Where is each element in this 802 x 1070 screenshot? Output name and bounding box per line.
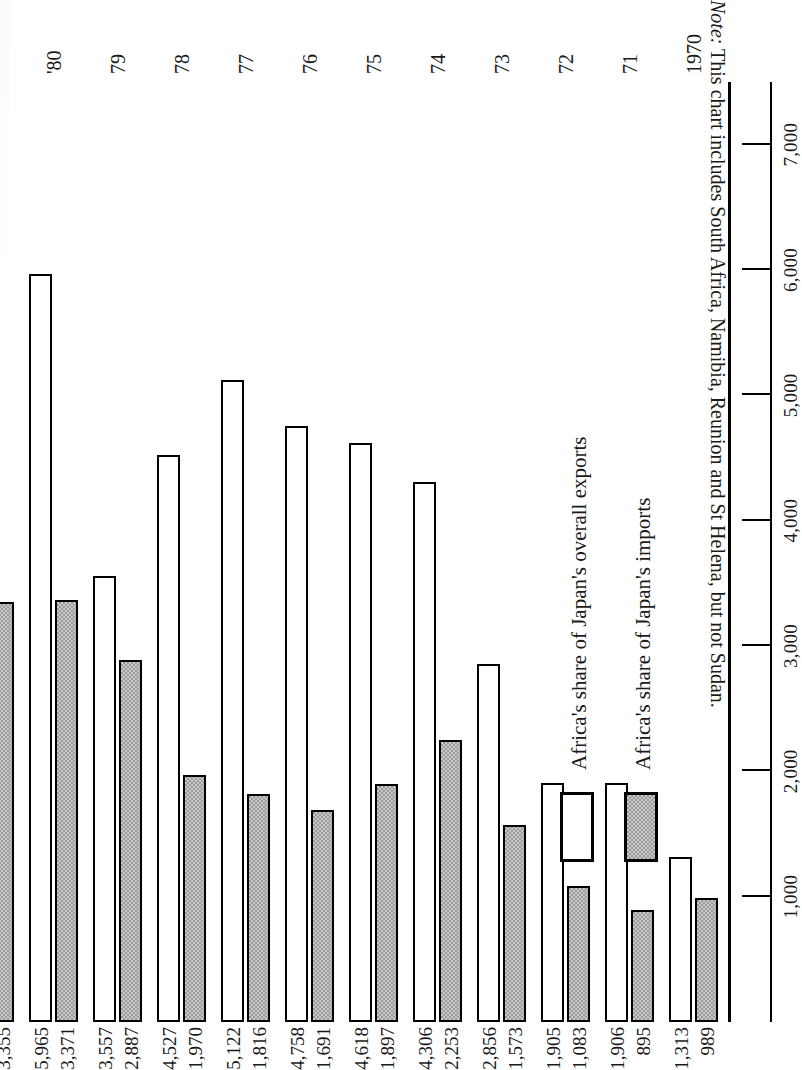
bar-value-label: 1,897: [377, 1027, 396, 1070]
bar-value-label: 5,122: [223, 1027, 242, 1070]
legend-swatch-exports: [560, 792, 594, 862]
bar-imports: 1,816: [247, 794, 270, 1022]
axis-tick: [742, 393, 770, 395]
bar-exports: 5,965: [29, 274, 52, 1022]
axis-tick: [742, 143, 770, 145]
axis-tick-label: 1,000: [780, 852, 802, 942]
bar-value-label: 4,527: [159, 1027, 178, 1070]
category-label: 78: [172, 4, 192, 74]
axis-tick-label: 7,000: [780, 100, 802, 190]
legend: Africa's share of Japan's overall export…: [560, 442, 688, 862]
bar-value-label: 989: [697, 1027, 716, 1056]
bar-value-label: 2,887: [121, 1027, 140, 1070]
axis-tick: [742, 769, 770, 771]
bar-value-label: 4,618: [351, 1027, 370, 1070]
bar-exports: 1,313: [669, 857, 692, 1022]
bar-imports: 3,355: [0, 602, 14, 1022]
bar-exports: 4,618: [349, 443, 372, 1022]
bar-value-label: 4,306: [415, 1027, 434, 1070]
bar-imports: 2,887: [119, 660, 142, 1022]
bar-imports: 1,691: [311, 810, 334, 1022]
axis-tick-label: 3,000: [780, 601, 802, 691]
axis-tick: [742, 268, 770, 270]
category-label: 71: [620, 4, 640, 74]
category-label: 77: [236, 4, 256, 74]
legend-item-imports: Africa's share of Japan's imports: [624, 442, 662, 862]
note-label: Note:: [707, 0, 729, 44]
axis-tick-label: 5,000: [780, 350, 802, 440]
chart-note: Note: This chart includes South Africa, …: [698, 0, 738, 1022]
bar-value-label: 1,816: [249, 1027, 268, 1070]
bar-value-label: 5,965: [31, 1027, 50, 1070]
legend-label-exports: Africa's share of Japan's overall export…: [567, 436, 592, 770]
bar-exports: 5,122: [221, 380, 244, 1022]
bar-value-label: 1,313: [671, 1027, 690, 1070]
bar-value-label: 1,573: [505, 1027, 524, 1070]
bar-exports: 4,758: [285, 426, 308, 1022]
bar-value-label: 3,355: [0, 1027, 12, 1070]
bar-value-label: 1,691: [313, 1027, 332, 1070]
category-label: 75: [364, 4, 384, 74]
category-label: 72: [556, 4, 576, 74]
category-label: '80: [44, 4, 64, 74]
bar-value-label: 1,906: [607, 1027, 626, 1070]
axis-tick-label: 4,000: [780, 476, 802, 566]
bar-value-label: 2,856: [479, 1027, 498, 1070]
bar-imports: 1,897: [375, 784, 398, 1022]
legend-item-exports: Africa's share of Japan's overall export…: [560, 442, 598, 862]
legend-label-imports: Africa's share of Japan's imports: [631, 498, 656, 770]
bar-imports: 1,083: [567, 886, 590, 1022]
category-label: 76: [300, 4, 320, 74]
axis-tick-label: 6,000: [780, 225, 802, 315]
axis-tick: [742, 519, 770, 521]
axis-tick: [742, 895, 770, 897]
category-label: 79: [108, 4, 128, 74]
axis-tick-label: 2,000: [780, 726, 802, 816]
bar-exports: 2,856: [477, 664, 500, 1022]
axis-tick: [742, 644, 770, 646]
bar-value-label: 1,905: [543, 1027, 562, 1070]
bar-value-label: 1,970: [185, 1027, 204, 1070]
bar-value-label: 3,371: [57, 1027, 76, 1070]
note-text: This chart includes South Africa, Namibi…: [707, 44, 729, 707]
bar-exports: 3,557: [93, 576, 116, 1022]
category-label: 74: [428, 4, 448, 74]
bar-imports: 1,970: [183, 775, 206, 1022]
bar-value-label: 895: [633, 1027, 652, 1056]
bar-imports: 2,253: [439, 740, 462, 1022]
bar-exports: 4,527: [157, 455, 180, 1022]
bar-exports: 4,306: [413, 482, 436, 1022]
bar-imports: 895: [631, 910, 654, 1022]
bar-value-label: 4,758: [287, 1027, 306, 1070]
bar-imports: 1,573: [503, 825, 526, 1022]
bar-imports: 3,371: [55, 600, 78, 1022]
bar-value-label: 2,253: [441, 1027, 460, 1070]
bar-value-label: 3,557: [95, 1027, 114, 1070]
value-axis-line: [770, 82, 772, 1022]
legend-swatch-imports: [624, 792, 658, 862]
category-label: 73: [492, 4, 512, 74]
bar-value-label: 1,083: [569, 1027, 588, 1070]
